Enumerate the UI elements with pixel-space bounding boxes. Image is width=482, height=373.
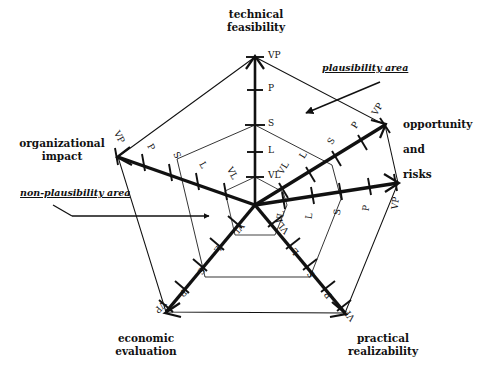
axis-title-line: organizational bbox=[12, 137, 112, 150]
annotation-plausibility-area: plausibility area bbox=[322, 62, 408, 73]
axis-title-technical-feasibility: technical feasibility bbox=[204, 8, 308, 34]
tick-label-risks-s: S bbox=[332, 208, 343, 216]
axis-title-economic-evaluation: economic evaluation bbox=[100, 332, 192, 358]
axis-title-line: realizability bbox=[348, 345, 418, 358]
axis-title-line: evaluation bbox=[100, 345, 192, 358]
tick-label-risks-vp: VP bbox=[389, 196, 401, 210]
annotation-non-plausibility-area: non-plausibility area bbox=[20, 187, 130, 198]
axis-economic-evaluation bbox=[166, 205, 255, 312]
tick-label-technical-l: L bbox=[268, 145, 274, 155]
non-plausibility-leader bbox=[53, 205, 209, 216]
axis-practical-realizability bbox=[255, 205, 345, 313]
plausibility-leader bbox=[306, 82, 380, 113]
outer-pentagon-ring bbox=[118, 57, 398, 313]
axis-title-line: economic bbox=[100, 332, 192, 345]
axis-title-line: and bbox=[403, 143, 472, 156]
axis-title-organizational-impact: organizational impact bbox=[12, 137, 112, 163]
axis-title-line: feasibility bbox=[204, 21, 308, 34]
axis-opportunity bbox=[255, 125, 385, 205]
axis-title-opportunity-and-risks: opportunity and risks bbox=[403, 118, 472, 181]
tick-label-risks-l: L bbox=[304, 212, 315, 219]
axis-risks bbox=[255, 183, 398, 205]
tick-label-technical-vp: VP bbox=[268, 50, 281, 60]
axis-title-practical-realizability: practical realizability bbox=[348, 332, 418, 358]
axis-title-line: technical bbox=[204, 8, 308, 21]
axis-title-line: impact bbox=[12, 150, 112, 163]
axis-arrowheads bbox=[117, 56, 399, 317]
tick-label-technical-p: P bbox=[268, 83, 274, 93]
tick-label-technical-s: S bbox=[268, 118, 274, 128]
axis-title-line: risks bbox=[403, 168, 472, 181]
diagram-canvas: technical feasibility opportunity and ri… bbox=[0, 0, 482, 373]
axis-title-line: practical bbox=[348, 332, 418, 345]
axis-title-line: opportunity bbox=[403, 118, 472, 131]
tick-label-risks-p: P bbox=[361, 204, 372, 211]
